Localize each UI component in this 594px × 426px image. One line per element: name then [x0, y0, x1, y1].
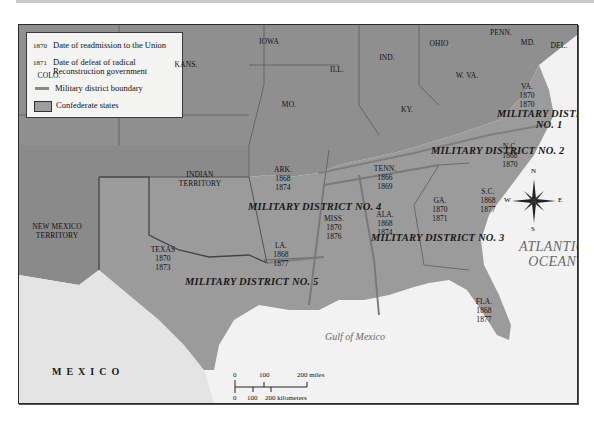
label-missouri: MO.: [282, 100, 296, 109]
state-name: MISS.: [324, 214, 344, 223]
label-ohio: OHIO: [429, 39, 448, 48]
state-label-louisiana: LA. 1868 1877: [273, 241, 288, 268]
label-indiana: IND.: [379, 53, 395, 62]
defeat-year: 1877: [476, 315, 492, 324]
military-district-5-label: MILITARY DISTRICT NO. 5: [185, 276, 319, 287]
state-label-arkansas: ARK. 1868 1874: [274, 165, 292, 192]
military-district-3-label: MILITARY DISTRICT NO. 3: [371, 232, 505, 243]
label-iowa: IOWA: [259, 37, 279, 46]
label-delaware: DEL.: [551, 41, 568, 50]
legend-label-defeat: Date of defeat of radical Reconstruction…: [53, 58, 168, 76]
defeat-year: 1876: [324, 232, 344, 241]
reconstruction-map: 1870 Date of readmission to the Union 18…: [18, 24, 578, 404]
gulf-of-mexico-label: Gulf of Mexico: [325, 331, 385, 342]
atlantic-line2: OCEAN: [519, 254, 578, 269]
legend-row-confederate: Confederate states: [33, 101, 119, 112]
defeat-year: 1871: [432, 214, 447, 223]
military-district-2-label: MILITARY DISTRICT NO. 2: [431, 145, 565, 156]
state-label-virginia: VA. 1870 1870: [519, 82, 534, 109]
readmission-year: 1866: [374, 173, 396, 182]
label-new-mexico-territory: NEW MEXICO TERRITORY: [22, 222, 92, 240]
scale-km-100: 100: [247, 394, 258, 402]
defeat-year: 1877: [480, 205, 495, 214]
readmission-year: 1870: [151, 254, 176, 263]
state-label-texas: TEXAS 1870 1873: [151, 245, 176, 272]
state-name: VA.: [521, 82, 533, 91]
legend-label-confederate: Confederate states: [56, 101, 119, 110]
compass-e: E: [558, 196, 562, 204]
scale-bar: 0 100 200 miles 0 100 200 kilometers: [231, 367, 341, 403]
readmission-year: 1868: [274, 174, 292, 183]
scale-miles-0: 0: [233, 371, 237, 379]
readmission-year: 1868: [480, 196, 495, 205]
defeat-year: 1877: [273, 259, 288, 268]
scale-km-0: 0: [233, 394, 237, 402]
legend-label-boundary: Military district boundary: [55, 84, 143, 93]
legend-label-readmission: Date of readmission to the Union: [53, 41, 166, 50]
readmission-year: 1870: [519, 91, 534, 100]
label-indian-territory: INDIAN TERRITORY: [170, 170, 230, 188]
label-west-virginia: W. VA.: [456, 71, 478, 80]
page-top-rule: [16, 0, 594, 3]
legend-year-readmission: 1870: [33, 42, 53, 51]
state-label-mississippi: MISS. 1870 1876: [324, 214, 344, 241]
label-colorado: COLO.: [38, 71, 61, 80]
readmission-year: 1868: [273, 250, 288, 259]
legend-row-readmission: 1870 Date of readmission to the Union: [33, 41, 166, 51]
readmission-year: 1868: [376, 219, 394, 228]
readmission-year: 1870: [432, 205, 447, 214]
compass-w: W: [504, 196, 511, 204]
military-district-4-label: MILITARY DISTRICT NO. 4: [248, 201, 382, 212]
military-district-1-label: MILITARY DISTRICT NO. 1: [497, 108, 578, 130]
state-label-georgia: GA. 1870 1871: [432, 196, 447, 223]
readmission-year: 1868: [476, 306, 492, 315]
state-label-south-carolina: S.C. 1868 1877: [480, 187, 495, 214]
scale-km-200: 200 kilometers: [265, 394, 307, 402]
state-name: LA.: [275, 241, 287, 250]
state-name: S.C.: [481, 187, 494, 196]
mexico-label: MEXICO: [52, 366, 124, 377]
atlantic-line1: ATLANTIC: [519, 239, 578, 254]
state-name: FLA.: [476, 297, 492, 306]
defeat-year: 1874: [274, 183, 292, 192]
state-label-florida: FLA. 1868 1877: [476, 297, 492, 324]
state-name: TEXAS: [151, 245, 176, 254]
confederate-swatch: [34, 101, 52, 112]
label-kansas: KANS.: [175, 60, 198, 69]
compass-s: S: [531, 225, 535, 233]
district-1-line1: MILITARY DISTRICT: [497, 108, 578, 119]
district-1-line2: NO. 1: [497, 119, 578, 130]
label-kentucky: KY.: [401, 105, 413, 114]
compass-rose: N S E W: [504, 171, 564, 231]
compass-star-icon: [504, 171, 564, 231]
state-name: GA.: [433, 196, 446, 205]
legend-year-defeat: 1871: [33, 59, 53, 68]
compass-n: N: [531, 167, 536, 175]
state-label-tennessee: TENN. 1866 1869: [374, 164, 396, 191]
defeat-year: 1870: [502, 160, 517, 169]
state-name: ARK.: [274, 165, 292, 174]
scale-miles-100: 100: [259, 371, 270, 379]
label-pennsylvania: PENN.: [490, 28, 512, 37]
state-name: TENN.: [374, 164, 396, 173]
atlantic-ocean-label: ATLANTIC OCEAN: [519, 239, 578, 269]
readmission-year: 1870: [324, 223, 344, 232]
label-maryland: MD.: [521, 38, 535, 47]
defeat-year: 1869: [374, 182, 396, 191]
scale-miles-200: 200 miles: [297, 371, 324, 379]
legend-row-boundary: Military district boundary: [33, 84, 143, 93]
label-illinois: ILL.: [330, 65, 344, 74]
boundary-line-swatch: [35, 87, 49, 90]
defeat-year: 1873: [151, 263, 176, 272]
